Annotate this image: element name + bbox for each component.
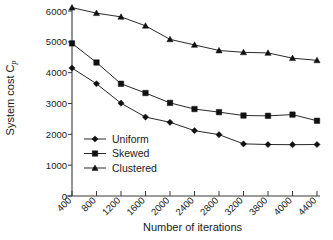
chart-figure: System cost Cp Number of iterations 0100…	[0, 0, 333, 240]
data-point-square	[118, 81, 123, 86]
data-point-diamond	[314, 141, 320, 147]
legend-marker-square-icon	[92, 151, 97, 156]
series-skewed	[69, 41, 319, 124]
x-tick-mark-group	[72, 191, 317, 196]
y-tick-label: 5000	[46, 36, 67, 47]
x-tick-label: 400	[54, 195, 73, 214]
series-clustered	[69, 5, 320, 63]
data-point-diamond	[167, 119, 173, 125]
data-point-square	[314, 118, 319, 123]
data-point-square	[167, 100, 172, 105]
y-tick-label: 1000	[46, 160, 67, 171]
x-tick-label: 2400	[173, 195, 196, 218]
legend-item-skewed[interactable]: Skewed	[84, 147, 150, 159]
legend-marker-diamond-icon	[92, 136, 98, 142]
plot-area: 0100020003000400050006000 40080012001600…	[0, 0, 333, 240]
data-point-square	[265, 113, 270, 118]
legend-label: Skewed	[112, 147, 150, 159]
data-point-square	[241, 113, 246, 118]
data-point-square	[143, 90, 148, 95]
y-tick-mark-group	[68, 11, 72, 196]
y-tick-label: 4000	[46, 67, 67, 78]
x-tick-label-group: 4008001200160020002400280032003800400044…	[54, 195, 318, 218]
x-tick-label: 1600	[124, 195, 147, 218]
series-group	[69, 5, 320, 148]
x-tick-label: 1200	[100, 195, 123, 218]
x-tick-label: 2000	[149, 195, 172, 218]
data-point-square	[216, 109, 221, 114]
x-tick-label: 3800	[247, 195, 270, 218]
x-tick-label: 3200	[222, 195, 245, 218]
x-tick-label: 800	[79, 195, 98, 214]
data-point-diamond	[265, 141, 271, 147]
data-point-diamond	[191, 128, 197, 134]
data-point-square	[192, 106, 197, 111]
x-tick-label: 4000	[271, 195, 294, 218]
y-tick-label: 6000	[46, 6, 67, 17]
data-point-square	[94, 60, 99, 65]
data-point-diamond	[69, 65, 75, 71]
data-point-diamond	[240, 141, 246, 147]
legend-label: Uniform	[112, 133, 149, 145]
data-point-square	[69, 41, 74, 46]
data-point-diamond	[142, 114, 148, 120]
series-line	[72, 8, 317, 61]
legend-label: Clustered	[112, 162, 157, 174]
y-tick-label: 3000	[46, 98, 67, 109]
legend-item-clustered[interactable]: Clustered	[84, 162, 157, 174]
y-tick-label-group: 0100020003000400050006000	[46, 6, 67, 202]
data-point-diamond	[216, 132, 222, 138]
y-tick-label: 2000	[46, 129, 67, 140]
data-point-triangle	[167, 36, 173, 42]
x-tick-label: 2800	[198, 195, 221, 218]
data-point-square	[290, 112, 295, 117]
x-tick-label: 4400	[296, 195, 319, 218]
legend: UniformSkewedClustered	[84, 133, 157, 174]
data-point-triangle	[69, 5, 75, 11]
data-point-diamond	[289, 142, 295, 148]
legend-item-uniform[interactable]: Uniform	[84, 133, 149, 145]
